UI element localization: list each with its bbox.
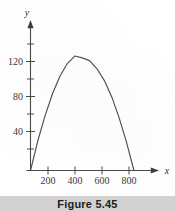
plot-svg: 120 80 40 200 400 600 800 y x bbox=[0, 0, 175, 196]
y-tick-label-80: 80 bbox=[13, 91, 23, 102]
figure-container: 120 80 40 200 400 600 800 y x Figure 5.4… bbox=[0, 0, 175, 212]
y-tick-label-40: 40 bbox=[13, 126, 23, 137]
y-axis-label: y bbox=[24, 7, 30, 18]
caption-band: Figure 5.45 bbox=[0, 196, 175, 212]
y-tick-label-120: 120 bbox=[8, 56, 23, 67]
x-axis-label: x bbox=[164, 165, 170, 176]
x-tick-label-400: 400 bbox=[68, 175, 83, 186]
x-tick-label-200: 200 bbox=[41, 175, 56, 186]
x-tick-label-600: 600 bbox=[95, 175, 110, 186]
y-axis-arrow-icon bbox=[27, 20, 33, 28]
figure-caption: Figure 5.45 bbox=[57, 198, 117, 210]
x-axis-arrow-icon bbox=[151, 167, 159, 173]
data-curve bbox=[31, 56, 134, 170]
plot-area: 120 80 40 200 400 600 800 y x bbox=[0, 0, 175, 196]
x-tick-label-800: 800 bbox=[122, 175, 137, 186]
